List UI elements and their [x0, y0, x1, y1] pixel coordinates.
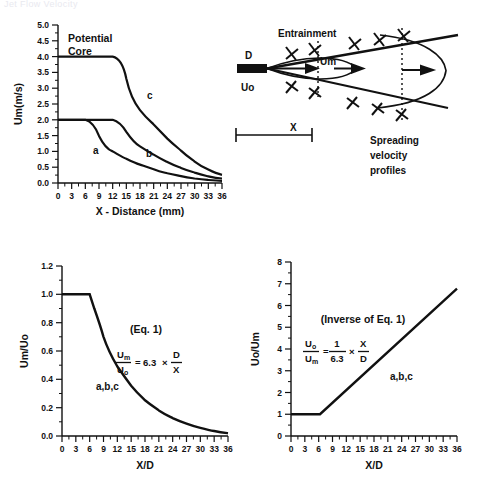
label-centerline-velocity: Um: [320, 56, 336, 67]
svg-text:0: 0: [56, 191, 61, 201]
svg-text:9: 9: [330, 444, 335, 454]
svg-text:3.0: 3.0: [37, 83, 49, 93]
chart1-x-axis-title: X - Distance (mm): [96, 205, 185, 217]
chart3-x-axis-title: X/D: [365, 459, 383, 471]
svg-text:9: 9: [97, 191, 102, 201]
svg-text:18: 18: [140, 444, 150, 454]
label-spreading-1: Spreading: [370, 135, 419, 146]
svg-text:6: 6: [87, 444, 92, 454]
svg-text:5: 5: [277, 322, 282, 332]
curve-b: [58, 120, 222, 179]
svg-text:21: 21: [154, 444, 164, 454]
svg-text:×: ×: [349, 346, 355, 357]
figure-root: Jet Flow Velocity: [0, 0, 483, 490]
svg-text:24: 24: [168, 444, 178, 454]
svg-text:1.2: 1.2: [41, 261, 53, 271]
svg-text:6: 6: [316, 444, 321, 454]
chart3-equation-note: (Inverse of Eq. 1): [321, 313, 406, 325]
svg-text:27: 27: [182, 444, 192, 454]
annotation-core: Core: [68, 45, 92, 57]
chart2-x-ticks: [62, 436, 228, 442]
label-distance: X: [290, 122, 297, 133]
svg-text:4.0: 4.0: [37, 52, 49, 62]
svg-text:1.0: 1.0: [37, 146, 49, 156]
chart3-y-axis-title: Uo/Um: [249, 332, 261, 366]
svg-text:7: 7: [277, 279, 282, 289]
svg-text:30: 30: [196, 444, 206, 454]
chart3-x-ticks: [291, 436, 457, 442]
curve-label-c: c: [147, 90, 153, 101]
chart3-equation: U o U m = 1 6.3 × X D: [303, 338, 369, 365]
chart-um-vs-x: 0.0 0.5 1.0 1.5 2.0 2.5 3.0 3.5 4.0 4.5 …: [0, 5, 250, 220]
label-spreading-2: velocity: [370, 150, 408, 161]
svg-text:15: 15: [355, 444, 365, 454]
svg-text:o: o: [124, 369, 128, 376]
chart2-x-tick-labels: 0 3 6 9 12 15 18 21 24 27 30 33 36: [60, 444, 233, 454]
chart-umuo-vs-xd: 0.0 0.2 0.4 0.6 0.8 1.0 1.2: [12, 240, 248, 490]
svg-text:27: 27: [176, 191, 186, 201]
chart3-curve-label: a,b,c: [390, 371, 413, 382]
svg-text:33: 33: [204, 191, 214, 201]
svg-text:0.8: 0.8: [41, 318, 53, 328]
svg-text:0: 0: [60, 444, 65, 454]
svg-text:m: m: [124, 354, 130, 361]
chart2-x-axis-title: X/D: [136, 459, 154, 471]
svg-text:U: U: [117, 349, 124, 360]
label-entrainment: Entrainment: [278, 28, 337, 39]
curve-a: [58, 120, 222, 181]
svg-text:=: =: [135, 357, 141, 368]
chart2-y-ticks: [56, 266, 62, 436]
svg-text:0: 0: [277, 431, 282, 441]
svg-text:0.6: 0.6: [41, 346, 53, 356]
svg-text:1: 1: [334, 338, 340, 349]
svg-text:36: 36: [217, 191, 227, 201]
chart2-y-tick-labels: 0.0 0.2 0.4 0.6 0.8 1.0 1.2: [41, 261, 53, 441]
svg-text:1.5: 1.5: [37, 131, 49, 141]
chart2-equation-note: (Eq. 1): [130, 323, 162, 335]
svg-text:2: 2: [277, 388, 282, 398]
svg-text:0.0: 0.0: [41, 431, 53, 441]
svg-text:12: 12: [113, 444, 123, 454]
label-nozzle-diameter: D: [245, 50, 252, 61]
svg-text:30: 30: [425, 444, 435, 454]
svg-text:U: U: [117, 364, 124, 375]
nozzle-block: [237, 64, 267, 73]
svg-text:4: 4: [277, 344, 282, 354]
curve-label-b: b: [146, 148, 152, 159]
svg-text:12: 12: [342, 444, 352, 454]
svg-text:X: X: [173, 364, 180, 375]
svg-text:30: 30: [190, 191, 200, 201]
svg-text:15: 15: [122, 191, 132, 201]
svg-text:3: 3: [277, 366, 282, 376]
svg-text:12: 12: [108, 191, 118, 201]
svg-text:2.5: 2.5: [37, 99, 49, 109]
chart2-equation: U m U o = 6.3 × D X: [115, 349, 182, 376]
label-exit-velocity: Uo: [241, 82, 254, 93]
chart2-curve-label: a,b,c: [96, 381, 119, 392]
chart3-y-ticks: [285, 262, 291, 436]
svg-text:33: 33: [209, 444, 219, 454]
svg-text:8: 8: [277, 257, 282, 267]
svg-text:6.3: 6.3: [143, 357, 156, 368]
svg-text:6: 6: [277, 301, 282, 311]
svg-text:21: 21: [383, 444, 393, 454]
svg-text:0.4: 0.4: [41, 374, 53, 384]
svg-text:6.3: 6.3: [330, 353, 343, 364]
svg-text:o: o: [312, 343, 316, 350]
svg-text:0.5: 0.5: [37, 162, 49, 172]
svg-text:15: 15: [126, 444, 136, 454]
svg-text:36: 36: [223, 444, 233, 454]
svg-text:9: 9: [101, 444, 106, 454]
svg-text:24: 24: [397, 444, 407, 454]
svg-text:5.0: 5.0: [37, 20, 49, 30]
curve-label-a: a: [93, 145, 99, 156]
svg-text:D: D: [360, 353, 367, 364]
svg-text:36: 36: [452, 444, 462, 454]
label-spreading-3: profiles: [370, 165, 407, 176]
svg-text:0.0: 0.0: [37, 178, 49, 188]
svg-text:18: 18: [369, 444, 379, 454]
svg-text:24: 24: [163, 191, 173, 201]
svg-text:1.0: 1.0: [41, 289, 53, 299]
chart1-y-axis-title: Um(m/s): [12, 83, 24, 125]
svg-text:X: X: [360, 338, 367, 349]
